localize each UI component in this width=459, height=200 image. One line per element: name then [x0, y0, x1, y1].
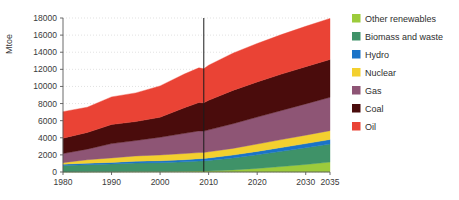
x-tick-labels: 1980199020002010202020302035 — [54, 172, 340, 187]
legend-label: Nuclear — [365, 68, 396, 78]
legend-label: Oil — [365, 122, 376, 132]
y-tick-label: 14000 — [33, 47, 57, 57]
legend-swatch — [352, 68, 361, 77]
legend-swatch — [352, 104, 361, 113]
y-tick-label: 18000 — [33, 13, 57, 23]
chart-figure: 0200040006000800010000120001400016000180… — [0, 0, 459, 200]
legend-swatch — [352, 32, 361, 41]
legend-label: Coal — [365, 104, 384, 114]
y-tick-label: 16000 — [33, 30, 57, 40]
stacked-area-chart: 0200040006000800010000120001400016000180… — [0, 0, 459, 200]
legend-swatch — [352, 14, 361, 23]
legend-label: Gas — [365, 86, 382, 96]
legend-label: Biomass and waste — [365, 32, 443, 42]
y-tick-label: 6000 — [38, 116, 57, 126]
y-tick-label: 10000 — [33, 81, 57, 91]
x-tick-label: 2000 — [151, 177, 170, 187]
chart-legend: Other renewablesBiomass and wasteHydroNu… — [352, 14, 443, 132]
y-tick-labels: 0200040006000800010000120001400016000180… — [33, 13, 63, 177]
y-tick-label: 8000 — [38, 99, 57, 109]
legend-swatch — [352, 122, 361, 131]
x-tick-label: 2010 — [199, 177, 218, 187]
y-tick-label: 4000 — [38, 133, 57, 143]
x-tick-label: 1980 — [54, 177, 73, 187]
legend-swatch — [352, 50, 361, 59]
x-tick-label: 2030 — [296, 177, 315, 187]
legend-label: Other renewables — [365, 14, 437, 24]
area-series-group — [63, 18, 330, 172]
y-tick-label: 0 — [52, 167, 57, 177]
x-tick-label: 1990 — [102, 177, 121, 187]
legend-label: Hydro — [365, 50, 389, 60]
y-tick-label: 12000 — [33, 64, 57, 74]
y-axis-title: Mtoe — [4, 34, 14, 54]
y-tick-label: 2000 — [38, 150, 57, 160]
legend-swatch — [352, 86, 361, 95]
x-tick-label: 2035 — [321, 177, 340, 187]
x-tick-label: 2020 — [248, 177, 267, 187]
